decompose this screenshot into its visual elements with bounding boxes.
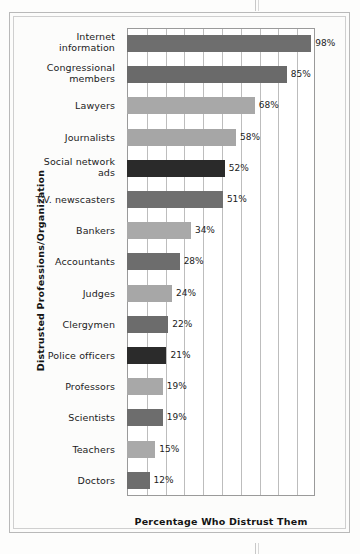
bar-row: Social networkads52% <box>0 153 360 184</box>
bar-value-label: 98% <box>311 35 335 52</box>
bar <box>127 66 287 83</box>
category-label-line1: Social network <box>0 156 115 167</box>
bar <box>127 378 163 395</box>
bar-row: T.V. newscasters51% <box>0 184 360 215</box>
bar <box>127 316 168 333</box>
bar-value-label: 51% <box>223 191 247 208</box>
category-label: Accountants <box>0 256 115 267</box>
bar <box>127 253 180 270</box>
category-label: Scientists <box>0 412 115 423</box>
bar-row: Doctors12% <box>0 465 360 496</box>
category-label-line2: information <box>0 42 115 53</box>
bar-row: Accountants28% <box>0 246 360 277</box>
category-label: Congressionalmembers <box>0 62 115 84</box>
bar <box>127 97 255 114</box>
bar-row: Professors19% <box>0 371 360 402</box>
bar <box>127 441 155 458</box>
bar-row: Scientists19% <box>0 402 360 433</box>
category-label: Judges <box>0 288 115 299</box>
bar-value-label: 22% <box>168 316 192 333</box>
bar-row: Police officers21% <box>0 340 360 371</box>
category-label-line1: Internet <box>0 31 115 42</box>
bar-value-label: 21% <box>166 347 190 364</box>
category-label-line2: members <box>0 73 115 84</box>
bar-value-label: 28% <box>180 253 204 270</box>
bar <box>127 191 223 208</box>
category-label: Teachers <box>0 444 115 455</box>
chart-page: Internetinformation98%Congressionalmembe… <box>0 0 360 554</box>
bar-value-label: 34% <box>191 222 215 239</box>
bar-value-label: 19% <box>163 378 187 395</box>
bar <box>127 285 172 302</box>
category-label-line1: Congressional <box>0 62 115 73</box>
category-label: Lawyers <box>0 100 115 111</box>
bar-value-label: 85% <box>287 66 311 83</box>
bar-row: Teachers15% <box>0 434 360 465</box>
category-label: Clergymen <box>0 319 115 330</box>
bar <box>127 472 150 489</box>
bar <box>127 222 191 239</box>
bar-value-label: 12% <box>150 472 174 489</box>
category-label: Journalists <box>0 132 115 143</box>
category-label: Police officers <box>0 350 115 361</box>
bar <box>127 160 225 177</box>
bar-row: Bankers34% <box>0 215 360 246</box>
bar-value-label: 52% <box>225 160 249 177</box>
bar-value-label: 68% <box>255 97 279 114</box>
category-label: Doctors <box>0 475 115 486</box>
category-label: Social networkads <box>0 156 115 178</box>
bar-row: Clergymen22% <box>0 309 360 340</box>
category-label: Professors <box>0 381 115 392</box>
category-label-line2: ads <box>0 167 115 178</box>
bar-value-label: 58% <box>236 129 260 146</box>
bar <box>127 35 311 52</box>
category-label: Internetinformation <box>0 31 115 53</box>
bar-row: Judges24% <box>0 278 360 309</box>
category-label: Bankers <box>0 225 115 236</box>
bar-value-label: 19% <box>163 409 187 426</box>
bar-chart: Internetinformation98%Congressionalmembe… <box>0 0 360 554</box>
bar <box>127 347 166 364</box>
category-label: T.V. newscasters <box>0 194 115 205</box>
y-axis-title: Distrusted Professions/Organization <box>35 151 46 391</box>
bar-row: Internetinformation98% <box>0 28 360 59</box>
bar-row: Lawyers68% <box>0 90 360 121</box>
bar-value-label: 24% <box>172 285 196 302</box>
bar <box>127 409 163 426</box>
bar-row: Journalists58% <box>0 122 360 153</box>
x-axis-title: Percentage Who Distrust Them <box>127 516 315 527</box>
bar <box>127 129 236 146</box>
bar-row: Congressionalmembers85% <box>0 59 360 90</box>
bar-value-label: 15% <box>155 441 179 458</box>
